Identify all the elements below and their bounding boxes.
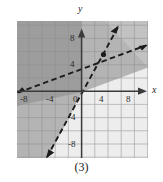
axes: [17, 33, 143, 158]
y-tick-4: 4: [70, 60, 75, 69]
x-tick-minus4: -4: [46, 95, 54, 104]
y-tick-8: 8: [70, 34, 75, 43]
intersection-point: [101, 52, 106, 57]
steep-line: [47, 27, 118, 157]
y-tick-minus8: -8: [68, 140, 76, 149]
x-tick-minus8: -8: [20, 95, 28, 104]
x-tick-8: 8: [126, 95, 131, 104]
graph-figure: x y -8 -4 0 4 8 8 4 -4 -8 (3): [0, 0, 163, 182]
plot-area: [17, 21, 148, 158]
figure-caption: (3): [0, 160, 163, 175]
x-axis-label: x: [152, 85, 156, 95]
x-axis-arrow: [138, 88, 147, 95]
x-tick-zero: 0: [73, 95, 78, 104]
y-tick-minus4: -4: [68, 113, 76, 122]
y-axis-arrow: [78, 29, 85, 38]
y-axis-label: y: [78, 4, 82, 14]
x-tick-4: 4: [99, 95, 104, 104]
boundary-lines: [17, 21, 148, 158]
